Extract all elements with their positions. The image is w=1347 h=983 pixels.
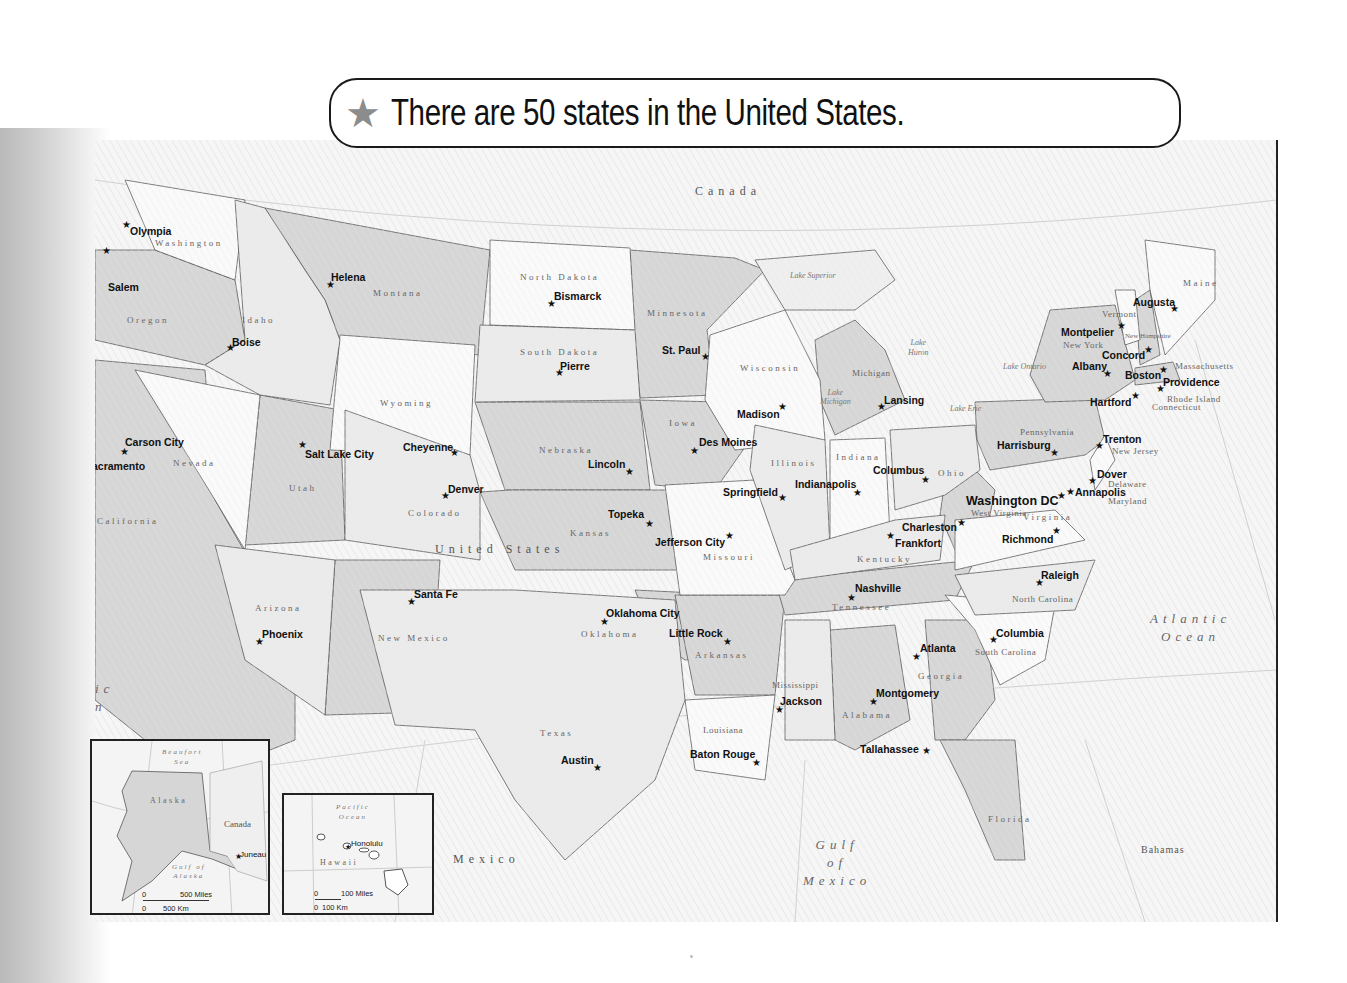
lake-michigan-l2: Michigan [820,397,851,406]
state-label: Georgia [918,671,964,681]
atlantic-line2: Ocean [1150,628,1231,646]
state-label: Michigan [852,368,891,378]
state-label: New Jersey [1112,446,1159,456]
capital-label: Richmond [1002,533,1053,545]
capital-label: Providence [1163,376,1220,388]
capital-label: Harrisburg [997,439,1051,451]
capital-label: Salt Lake City [305,448,374,460]
state-label: Texas [540,728,573,738]
capital-label: Springfield [723,486,778,498]
capital-label: Phoenix [262,628,303,640]
state-label: Indiana [836,452,881,462]
state-label: Connecticut [1152,402,1201,412]
capital-label: Trenton [1103,433,1142,445]
capital-star-icon: ★ [886,531,895,541]
state-label: Oregon [127,315,169,325]
capital-label: Atlanta [920,642,956,654]
capital-label: Frankfort [895,537,941,549]
label-bahamas: Bahamas [1141,844,1185,855]
capital-label: Augusta [1133,296,1175,308]
label-lake-erie: Lake Erie [950,404,981,413]
pacific-inset-l1: Pacific [336,802,370,812]
capital-label: Charleston [902,521,957,533]
capital-star-icon: ★ [1050,448,1059,458]
capital-label: Dover [1097,468,1127,480]
state-label: Wisconsin [740,363,800,373]
capital-label: Tallahassee [860,743,919,755]
beaufort-l2: Sea [162,757,203,767]
gulf-alaska-l2: Alaska [172,872,206,881]
label-lake-michigan: Lake Michigan [820,388,851,406]
state-label: New Hampshire [1125,332,1171,340]
capital-label: Jefferson City [655,536,725,548]
capital-label: Albany [1072,360,1107,372]
capital-star-icon: ★ [921,475,930,485]
scale-km: 500 Km [163,904,189,913]
state-label: Wyoming [380,398,433,408]
state-label: Tennessee [832,602,891,612]
label-pacific-ocean-inset: Pacific Ocean [336,802,370,822]
state-label: Iowa [669,418,697,428]
capital-star-icon: ★ [725,531,734,541]
capital-star-icon: ★ [690,446,699,456]
lake-huron-l2: Huron [908,348,929,358]
state-label: Illinois [771,458,817,468]
capital-star-icon: ★ [847,593,856,603]
capital-star-icon: ★ [957,518,966,528]
page-speck [690,955,693,958]
capital-label: Sacramento [95,460,145,472]
state-label: Arizona [255,603,302,613]
label-alaska: Alaska [150,796,187,805]
scale-miles: 500 Miles [180,890,212,899]
capital-star-icon: ★ [723,637,732,647]
capital-star-icon: ★ [120,447,129,457]
label-gulf-of-alaska: Gulf of Alaska [172,863,206,881]
capital-label: Jackson [780,695,822,707]
pacific-inset-l2: Ocean [336,812,370,822]
gulf-line1: Gulf [803,836,871,854]
label-lake-ontario: Lake Ontario [1003,362,1046,371]
state-label: Idaho [242,315,275,325]
state-label: Oklahoma [581,629,639,639]
state-label: Pennsylvania [1020,427,1074,437]
state-label: Ohio [938,468,966,478]
label-canada: Canada [695,184,761,199]
state-label: Kentucky [857,554,912,564]
atlantic-line1: Atlantic [1150,610,1231,628]
state-label: Minnesota [647,308,708,318]
state-label: South Dakota [520,347,599,357]
map-graphic [95,140,1277,922]
state-label: South Carolina [975,647,1036,657]
capital-star-icon: ★ [922,746,931,756]
capital-label: Columbia [996,627,1044,639]
capital-label: Pierre [560,360,590,372]
label-lake-huron: Lake Huron [908,338,929,358]
state-label: Maine [1183,278,1219,288]
capital-label: Lincoln [588,458,625,470]
capital-label: Madison [737,408,780,420]
capital-label: Des Moines [699,436,757,448]
capital-label: Nashville [855,582,901,594]
capital-label: Bismarck [554,290,601,302]
state-label: Colorado [408,508,462,518]
label-gulf-of-mexico: Gulf of Mexico [803,836,871,890]
capital-label: Montgomery [876,687,939,699]
capital-label: Olympia [130,225,171,237]
label-hawaii: Hawaii [320,858,358,867]
us-map: Canada United States Mexico Bahamas Atla… [95,140,1277,922]
state-label: Montana [373,288,423,298]
state-label: Vermont [1102,309,1137,319]
scale-km: 100 Km [322,903,348,912]
state-label: Mississippi [772,680,819,690]
star-icon: ★ [345,93,381,133]
capital-label: Topeka [608,508,644,520]
state-label: Utah [289,483,317,493]
state-label: West Virginia [971,508,1027,518]
state-label: New York [1063,340,1104,350]
label-united-states: United States [435,542,564,557]
capital-star-icon: ★ [778,493,787,503]
label-lake-superior: Lake Superior [790,271,836,280]
capital-label: Annapolis [1075,486,1126,498]
capital-star-icon: ★ [102,246,111,256]
gulf-line3: Mexico [803,872,871,890]
